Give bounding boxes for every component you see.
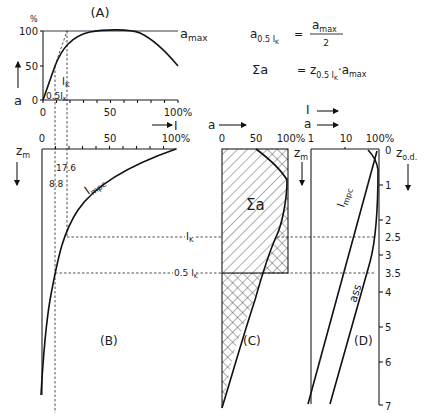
panel-a-xtick-100: 100% bbox=[164, 107, 193, 118]
panel-b-xtick-50: 50 bbox=[104, 133, 117, 144]
panel-b-x-symbol: I bbox=[174, 119, 178, 133]
panel-a-half-ik-label: 0.5IK bbox=[46, 91, 68, 102]
panel-d-x-symbol-a: a bbox=[304, 117, 311, 131]
panel-d-label: (D) bbox=[354, 334, 373, 348]
panel-d-depth-1: 1 bbox=[385, 180, 391, 191]
panel-d-x-symbol-i: I bbox=[306, 103, 310, 117]
panel-c-area-label: Σa bbox=[246, 196, 265, 214]
panel-a-xtick-0: 0 bbox=[40, 107, 46, 118]
panel-d-depth-3-5: 3.5 bbox=[385, 268, 401, 279]
panel-d-depth-4: 4 bbox=[385, 287, 391, 298]
panel-b-label: (B) bbox=[100, 334, 118, 348]
panel-d-depth-3: 3 bbox=[385, 250, 391, 261]
panel-c-x-symbol: a bbox=[208, 118, 215, 132]
panel-b: I 0 50 100% zm 17.6 8.8 Impc (B) bbox=[16, 119, 190, 395]
panel-d-depth-7: 7 bbox=[385, 401, 391, 412]
panel-d-assimilation-line bbox=[330, 150, 378, 404]
panel-c-xtick-50: 50 bbox=[250, 133, 263, 144]
panel-d-depth-5: 5 bbox=[385, 322, 391, 333]
panel-b-marker-8-8: 8.8 bbox=[49, 179, 64, 189]
eq1-equals: = bbox=[294, 28, 303, 41]
eq1-denominator: 2 bbox=[323, 38, 329, 48]
panel-a-y-unit: % bbox=[30, 15, 38, 24]
panel-a-label: (A) bbox=[90, 5, 109, 20]
panel-a-ytick-100: 100 bbox=[19, 26, 38, 37]
panel-d-light-line bbox=[308, 151, 377, 404]
half-ik-horizontal-label: 0.5 IK bbox=[174, 268, 199, 279]
eq1-numerator: amax bbox=[312, 18, 337, 34]
eq1-lhs: a0.5 IK bbox=[250, 27, 280, 45]
equations: a0.5 IK = amax 2 Σa = z0.5 IK·amax bbox=[250, 18, 367, 81]
panel-a-assimilation-curve bbox=[43, 30, 178, 100]
panel-a-y-symbol: a bbox=[14, 93, 22, 108]
panel-d: I a 1 10 100% 0 1 2 2.5 3 3.5 4 5 6 7 bbox=[304, 103, 417, 412]
panel-b-xtick-100: 100% bbox=[162, 133, 191, 144]
panel-b-marker-17-6: 17.6 bbox=[56, 163, 76, 173]
ik-horizontal-label: IK bbox=[186, 231, 194, 244]
eq2-lhs: Σa bbox=[252, 62, 268, 77]
panel-d-xtick-1: 1 bbox=[308, 133, 314, 144]
panel-a: (A) % 100 50 0 a 0 50 100% bbox=[14, 5, 208, 118]
panel-d-depth-ticks bbox=[379, 185, 383, 405]
panel-a-amax-label: amax bbox=[180, 26, 208, 43]
panel-d-curve2-label: ass bbox=[346, 282, 364, 304]
panel-b-curve-label: Impc bbox=[82, 174, 108, 199]
panel-c-label: (C) bbox=[243, 334, 261, 348]
panel-a-ytick-0: 0 bbox=[32, 95, 38, 106]
panel-d-depth-2: 2 bbox=[385, 215, 391, 226]
panel-c-xtick-0: 0 bbox=[219, 133, 225, 144]
panel-c-z-label: zm bbox=[294, 146, 308, 162]
panel-d-depth-6: 6 bbox=[385, 357, 391, 368]
panel-a-xtick-50: 50 bbox=[104, 107, 117, 118]
panel-d-zod-label: zo.d. bbox=[396, 146, 417, 162]
panel-d-xtick-100: 100% bbox=[366, 133, 395, 144]
diagram-canvas: (A) % 100 50 0 a 0 50 100% bbox=[0, 0, 431, 413]
panel-a-ytick-50: 50 bbox=[25, 61, 38, 72]
eq2-equals: = bbox=[297, 64, 306, 77]
panel-c: a 0 50 100% Σa (C) zm bbox=[208, 118, 308, 408]
panel-d-depth-2-5: 2.5 bbox=[385, 232, 401, 243]
panel-d-xtick-10: 10 bbox=[340, 133, 353, 144]
panel-d-curve1-label: Impc bbox=[334, 185, 355, 209]
panel-d-depth-0: 0 bbox=[385, 145, 391, 156]
eq2-rhs: z0.5 IK·amax bbox=[310, 63, 367, 81]
panel-a-ik-label: IK bbox=[62, 76, 70, 89]
panel-c-xtick-100: 100% bbox=[277, 133, 306, 144]
panel-b-xtick-0: 0 bbox=[39, 133, 45, 144]
panel-b-z-label: zm bbox=[16, 144, 30, 160]
